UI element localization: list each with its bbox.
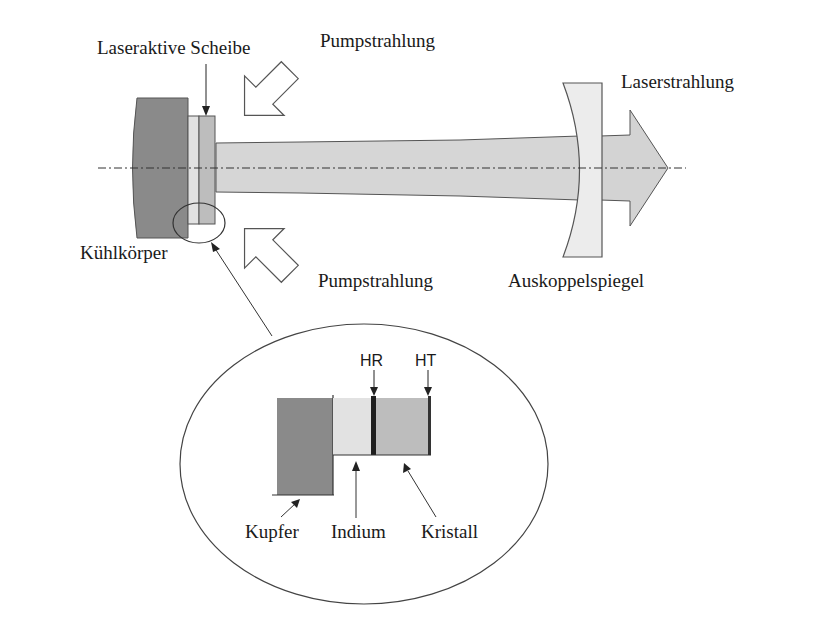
label-output-mirror: Auskoppelspiegel <box>508 270 644 291</box>
laser-disk <box>199 116 215 224</box>
detail-hr-coating <box>371 396 376 455</box>
label-disk: Laseraktive Scheibe <box>97 37 251 58</box>
detail-ht-coating <box>428 396 431 455</box>
label-ht: HT <box>415 352 437 369</box>
indium-layer <box>188 116 199 224</box>
label-copper: Kupfer <box>245 521 299 542</box>
detail-leader-arrowhead <box>211 242 220 252</box>
pump-arrow-bottom <box>225 209 310 294</box>
label-heatsink: Kühlkörper <box>80 242 168 263</box>
pump-arrow-top <box>225 50 310 135</box>
disk-pointer-arrowhead <box>202 106 210 116</box>
detail-copper <box>277 398 333 495</box>
detail-crystal <box>376 398 428 455</box>
label-laser-out: Laserstrahlung <box>621 71 734 92</box>
label-pump-top: Pumpstrahlung <box>320 30 436 51</box>
label-pump-bottom: Pumpstrahlung <box>318 270 434 291</box>
label-crystal: Kristall <box>421 521 478 542</box>
label-indium: Indium <box>331 521 386 542</box>
thin-disk-laser-diagram: Laseraktive Scheibe Pumpstrahlung Lasers… <box>0 0 813 626</box>
detail-indium <box>333 398 371 455</box>
label-hr: HR <box>360 352 383 369</box>
